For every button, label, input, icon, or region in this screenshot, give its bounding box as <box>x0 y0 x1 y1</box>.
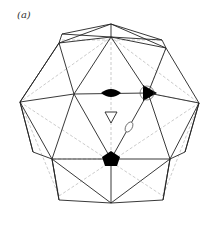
symmetry-symbols <box>101 85 157 166</box>
five-fold-pentagon-icon <box>102 151 120 166</box>
two-fold-lens-icon <box>101 89 121 97</box>
two-fold-open-lens-icon <box>123 121 134 134</box>
polyhedron-diagram <box>0 0 216 225</box>
three-fold-open-triangle-icon <box>105 112 117 123</box>
